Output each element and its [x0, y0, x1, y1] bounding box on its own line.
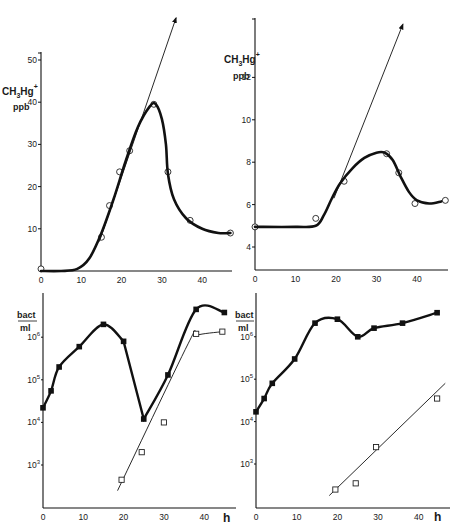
svg-text:20: 20 [28, 182, 38, 192]
svg-text:103: 103 [27, 459, 40, 470]
svg-text:10: 10 [28, 224, 38, 234]
bottom-left-x-label: h [223, 511, 230, 525]
panel-bottom-right-bacteria: 010203040103104105106 [240, 293, 450, 522]
axes: 010203040103104105106 [27, 293, 236, 522]
svg-text:30: 30 [372, 274, 382, 284]
svg-text:20: 20 [119, 512, 129, 522]
svg-text:20: 20 [333, 512, 343, 522]
svg-text:ml: ml [20, 323, 31, 333]
svg-text:30: 30 [159, 512, 169, 522]
axes: 0102030404681012 [242, 18, 448, 284]
svg-text:CH3Hg+: CH3Hg+ [2, 83, 38, 99]
svg-text:30: 30 [157, 275, 167, 285]
svg-text:10: 10 [242, 115, 252, 125]
svg-text:50: 50 [28, 55, 38, 65]
svg-text:103: 103 [240, 458, 253, 469]
series-measured [252, 151, 448, 230]
svg-text:30: 30 [28, 139, 38, 149]
svg-text:40: 40 [412, 274, 422, 284]
panel-top-right-methylmercury: 0102030404681012 [242, 18, 449, 284]
svg-text:10: 10 [77, 275, 87, 285]
svg-text:40: 40 [199, 512, 209, 522]
series-total-bacteria [40, 305, 227, 421]
svg-text:0: 0 [253, 274, 258, 284]
series-total-bacteria [253, 310, 440, 415]
svg-text:bact: bact [17, 310, 36, 320]
axes: 010203040103104105106 [240, 293, 450, 522]
bottom-left-y-label: bact ml [17, 310, 37, 333]
svg-text:10: 10 [79, 512, 89, 522]
svg-text:0: 0 [254, 512, 259, 522]
svg-text:CH3Hg+: CH3Hg+ [224, 51, 260, 67]
svg-text:0: 0 [39, 275, 44, 285]
svg-text:40: 40 [197, 275, 207, 285]
series-second-population [329, 383, 445, 495]
svg-text:104: 104 [27, 416, 40, 427]
figure: 0102030401020304050 0102030404681012 010… [0, 0, 456, 529]
svg-text:bact: bact [235, 310, 254, 320]
series-initial-rate-tangent [334, 24, 403, 198]
series-measured [38, 101, 233, 272]
axes: 0102030401020304050 [28, 52, 232, 285]
svg-text:ppb: ppb [13, 102, 30, 112]
svg-text:ppb: ppb [233, 71, 250, 81]
svg-text:20: 20 [117, 275, 127, 285]
svg-text:0: 0 [41, 512, 46, 522]
svg-text:20: 20 [331, 274, 341, 284]
series-second-population [118, 329, 225, 491]
svg-text:30: 30 [373, 512, 383, 522]
svg-text:40: 40 [414, 512, 424, 522]
bottom-right-x-label: h [434, 510, 441, 524]
panel-bottom-left-bacteria: 010203040103104105106 [27, 293, 236, 522]
panel-top-left-methylmercury: 0102030401020304050 [28, 18, 234, 285]
svg-text:105: 105 [240, 373, 253, 384]
svg-text:10: 10 [292, 512, 302, 522]
svg-text:8: 8 [246, 157, 251, 167]
svg-text:10: 10 [291, 274, 301, 284]
svg-text:ml: ml [238, 323, 249, 333]
svg-text:4: 4 [246, 242, 251, 252]
series-fitted-curve [41, 103, 230, 271]
bottom-right-y-label: bact ml [235, 310, 254, 333]
top-right-y-label: CH3Hg+ ppb [224, 51, 260, 81]
svg-text:6: 6 [246, 200, 251, 210]
svg-text:105: 105 [27, 374, 40, 385]
svg-text:104: 104 [240, 416, 253, 427]
